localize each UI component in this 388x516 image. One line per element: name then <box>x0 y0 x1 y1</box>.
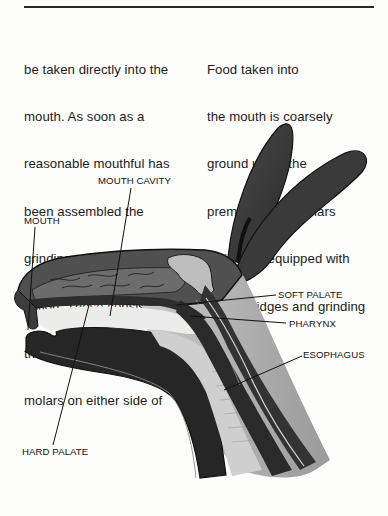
label-mouth: MOUTH <box>24 215 60 226</box>
anatomy-illustration <box>0 0 388 516</box>
label-pharynx: PHARYNX <box>289 318 336 329</box>
label-mouth-cavity: MOUTH CAVITY <box>98 175 171 186</box>
label-esophagus: ESOPHAGUS <box>303 349 365 360</box>
label-soft-palate: SOFT PALATE <box>278 289 343 300</box>
label-hard-palate: HARD PALATE <box>22 446 88 457</box>
